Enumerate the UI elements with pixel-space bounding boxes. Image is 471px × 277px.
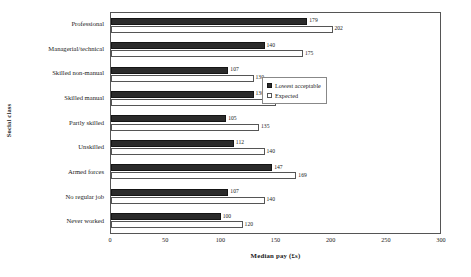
x-tick-label: 0 <box>108 236 111 243</box>
category-label: Skilled manual <box>16 86 108 111</box>
category-bar-group: 112140 <box>111 135 440 159</box>
bar-value-label: 169 <box>296 173 306 179</box>
bar-value-label: 140 <box>265 43 275 49</box>
bar-expected <box>111 99 276 106</box>
bar-value-label: 105 <box>226 116 236 122</box>
bar-row: 179 <box>111 18 440 25</box>
bar-value-label: 107 <box>228 67 238 73</box>
category-bar-group: 179202 <box>111 13 440 37</box>
legend-item: Expected <box>267 91 321 101</box>
bar-value-label: 147 <box>272 165 282 171</box>
category-label: Never worked <box>16 209 108 234</box>
bar-row: 107 <box>111 189 440 196</box>
bar-expected <box>111 75 254 82</box>
plot-area: 1792021401751071301301501051351121401471… <box>110 12 441 234</box>
x-tick-label: 150 <box>271 236 280 243</box>
x-tick-label: 250 <box>381 236 390 243</box>
bar-expected <box>111 172 296 179</box>
bar-lowest-acceptable <box>111 189 228 196</box>
category-bar-group: 105135 <box>111 111 440 135</box>
x-tick-label: 100 <box>216 236 225 243</box>
x-tick-label: 300 <box>436 236 445 243</box>
legend-label: Expected <box>275 91 298 101</box>
bar-value-label: 112 <box>234 141 244 147</box>
category-bar-group: 140175 <box>111 37 440 61</box>
bar-value-label: 135 <box>259 124 269 130</box>
bar-value-label: 107 <box>228 189 238 195</box>
bar-row: 147 <box>111 164 440 171</box>
x-tick-label: 50 <box>162 236 168 243</box>
category-label: Armed forces <box>16 160 108 185</box>
bar-row: 112 <box>111 140 440 147</box>
bar-row: 175 <box>111 50 440 57</box>
category-label: Unskilled <box>16 135 108 160</box>
bar-row: 140 <box>111 197 440 204</box>
legend-swatch-icon <box>267 93 272 98</box>
category-label: Managerial/technical <box>16 37 108 62</box>
category-label: Professional <box>16 12 108 37</box>
bar-expected <box>111 124 259 131</box>
bar-expected <box>111 197 265 204</box>
bar-row: 100 <box>111 213 440 220</box>
bar-row: 135 <box>111 124 440 131</box>
bar-lowest-acceptable <box>111 91 254 98</box>
bar-lowest-acceptable <box>111 213 221 220</box>
bar-lowest-acceptable <box>111 115 226 122</box>
bar-row: 107 <box>111 67 440 74</box>
bar-lowest-acceptable <box>111 67 228 74</box>
bar-value-label: 179 <box>307 18 317 24</box>
bar-value-label: 202 <box>333 27 343 33</box>
bar-lowest-acceptable <box>111 164 272 171</box>
bar-lowest-acceptable <box>111 140 234 147</box>
bar-expected <box>111 50 303 57</box>
bar-expected <box>111 148 265 155</box>
legend-item: Lowest acceptable <box>267 81 321 91</box>
bar-lowest-acceptable <box>111 18 307 25</box>
bars-container: 1792021401751071301301501051351121401471… <box>111 13 440 233</box>
category-bar-group: 147169 <box>111 160 440 184</box>
y-axis-title: Social class <box>2 0 16 240</box>
category-bar-group: 107140 <box>111 184 440 208</box>
category-label: Partly skilled <box>16 111 108 136</box>
bar-value-label: 120 <box>243 222 253 228</box>
x-axis-ticks: 050100150200250300 <box>110 236 441 246</box>
legend-swatch-icon <box>267 83 272 88</box>
bar-row: 140 <box>111 42 440 49</box>
legend: Lowest acceptableExpected <box>262 77 327 104</box>
bar-value-label: 175 <box>303 51 313 57</box>
bar-row: 140 <box>111 148 440 155</box>
bar-expected <box>111 221 243 228</box>
bar-chart: Social class ProfessionalManagerial/tech… <box>0 0 471 277</box>
x-tick-label: 200 <box>326 236 335 243</box>
y-axis-title-text: Social class <box>6 103 13 137</box>
category-label: Skilled non-manual <box>16 61 108 86</box>
category-axis-labels: ProfessionalManagerial/technicalSkilled … <box>16 12 108 234</box>
category-label: No regular job <box>16 185 108 210</box>
bar-lowest-acceptable <box>111 42 265 49</box>
bar-expected <box>111 26 333 33</box>
bar-value-label: 100 <box>221 214 231 220</box>
bar-value-label: 140 <box>265 198 275 204</box>
x-axis-title: Median pay (£s) <box>110 252 441 259</box>
bar-row: 169 <box>111 172 440 179</box>
category-bar-group: 100120 <box>111 209 440 233</box>
bar-value-label: 140 <box>265 149 275 155</box>
legend-label: Lowest acceptable <box>275 81 321 91</box>
bar-row: 120 <box>111 221 440 228</box>
bar-row: 202 <box>111 26 440 33</box>
bar-row: 105 <box>111 115 440 122</box>
